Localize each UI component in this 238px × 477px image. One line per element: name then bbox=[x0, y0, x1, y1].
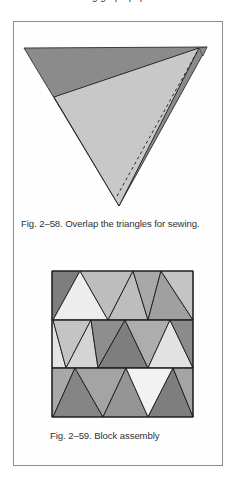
figure-2-59-block-assembly bbox=[0, 0, 238, 477]
figure-2-59-caption: Fig. 2–59. Block assembly bbox=[50, 430, 159, 441]
